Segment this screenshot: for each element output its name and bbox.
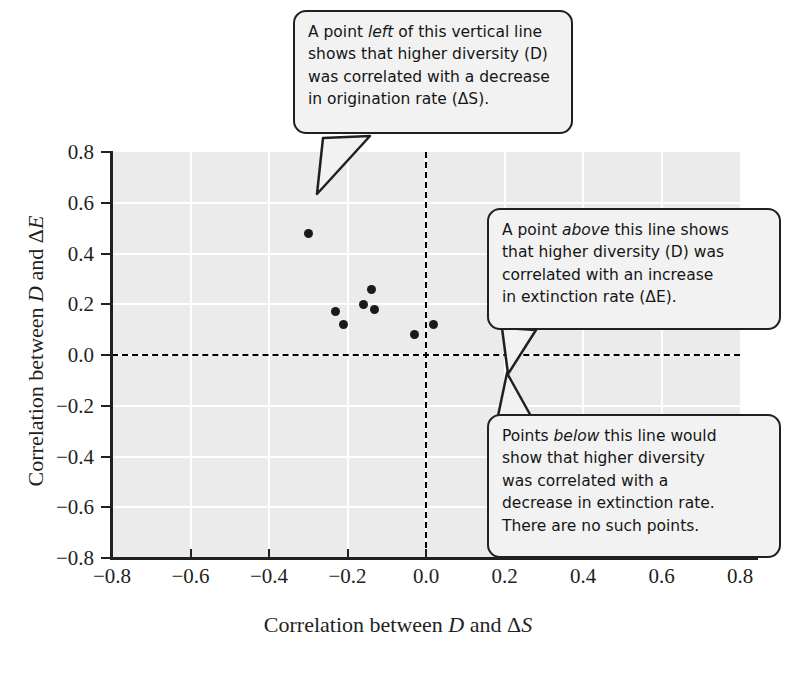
callout-2-text-c: this line shows [610, 221, 729, 239]
callout-3-line-3: was correlated with a [502, 470, 767, 492]
y-axis-tick [101, 557, 111, 559]
callout-2-text-a: A point [502, 221, 562, 239]
y-axis-tick [101, 405, 111, 407]
data-point [359, 300, 368, 309]
data-point [331, 307, 340, 316]
y-axis-tick-label: −0.4 [4, 447, 94, 468]
x-axis-tick-label: −0.4 [229, 566, 309, 587]
callout-3-text-a: Points [502, 427, 554, 445]
callout-extinction-decrease: Points below this line would show that h… [487, 414, 781, 558]
y-axis-label-var-e: E [23, 216, 48, 229]
callout-3-line-4: decrease in extinction rate. [502, 492, 767, 514]
y-axis-tick [101, 506, 111, 508]
x-axis-tick-label: −0.8 [72, 566, 152, 587]
callout-1-text-a: A point [308, 23, 368, 41]
x-axis-tick-label: 0.0 [386, 566, 466, 587]
callout-3-line-5: There are no such points. [502, 515, 767, 537]
callout-1-line-1: A point left of this vertical line [308, 21, 559, 43]
y-axis-tick-label: 0.8 [4, 142, 94, 163]
chart-figure: 0.80.60.40.20.0−0.2−0.4−0.6−0.8 −0.8−0.6… [0, 0, 796, 685]
callout-2-line-4: in extinction rate (ΔE). [502, 286, 767, 308]
callout-3-line-1: Points below this line would [502, 425, 767, 447]
x-axis-tick-label: −0.2 [308, 566, 388, 587]
callout-extinction-increase: A point above this line shows that highe… [487, 208, 781, 330]
x-axis-tick-label: 0.6 [622, 566, 702, 587]
y-axis-label: Correlation between D and ΔE [23, 141, 49, 561]
y-axis-label-var-d: D [23, 286, 48, 302]
x-axis-label: Correlation between D and ΔS [0, 612, 796, 638]
callout-3-text-c: this line would [599, 427, 716, 445]
y-axis-tick [101, 456, 111, 458]
y-axis-tick-label: −0.6 [4, 497, 94, 518]
y-axis-tick [101, 253, 111, 255]
x-axis-tick-label: 0.2 [465, 566, 545, 587]
x-axis-label-prefix: Correlation between [264, 612, 449, 637]
x-axis-tick [425, 549, 427, 559]
y-axis-tick [101, 303, 111, 305]
y-axis-tick [101, 354, 111, 356]
x-axis-label-var-s: S [521, 612, 532, 637]
y-axis-tick-label: 0.2 [4, 294, 94, 315]
y-axis-tick-label: 0.0 [4, 345, 94, 366]
x-axis-tick [347, 549, 349, 559]
data-point [370, 305, 379, 314]
x-axis-tick [111, 549, 113, 559]
callout-1-line-2: shows that higher diversity (D) [308, 43, 559, 65]
y-axis-tick-label: 0.4 [4, 244, 94, 265]
zero-reference-line-horizontal [112, 354, 740, 356]
x-axis-label-mid: and Δ [464, 612, 521, 637]
x-axis-label-var-d: D [448, 612, 464, 637]
y-axis-label-prefix: Correlation between [23, 302, 48, 487]
x-axis-tick [190, 549, 192, 559]
y-axis-tick-label: 0.6 [4, 193, 94, 214]
callout-2-line-3: correlated with an increase [502, 264, 767, 286]
callout-2-line-2: that higher diversity (D) was [502, 241, 767, 263]
x-axis-tick-label: 0.8 [700, 566, 780, 587]
y-axis-tick [101, 151, 111, 153]
callout-1-line-4: in origination rate (ΔS). [308, 88, 559, 110]
data-point [410, 330, 419, 339]
data-point [304, 229, 313, 238]
callout-1-emphasis: left [368, 23, 393, 41]
callout-1-line-3: was correlated with a decrease [308, 66, 559, 88]
y-axis-label-mid: and Δ [23, 229, 48, 286]
callout-3-line-2: show that higher diversity [502, 447, 767, 469]
callout-2-emphasis: above [562, 221, 610, 239]
callout-3-emphasis: below [554, 427, 600, 445]
data-point [367, 285, 376, 294]
callout-origination-rate: A point left of this vertical line shows… [293, 10, 573, 134]
y-axis-tick [101, 202, 111, 204]
x-axis-tick-label: 0.4 [543, 566, 623, 587]
x-axis-tick-label: −0.6 [151, 566, 231, 587]
data-point [429, 320, 438, 329]
callout-2-line-1: A point above this line shows [502, 219, 767, 241]
y-axis-tick-label: −0.2 [4, 396, 94, 417]
x-axis-tick [268, 549, 270, 559]
callout-1-text-c: of this vertical line [393, 23, 542, 41]
